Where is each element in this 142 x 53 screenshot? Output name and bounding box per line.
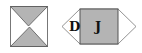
hourglass-box: [11, 7, 48, 47]
diagram-canvas: D J: [0, 0, 142, 53]
label-d: D: [69, 19, 80, 34]
label-j: J: [94, 19, 101, 34]
hexagon-with-square: D J: [62, 9, 136, 44]
